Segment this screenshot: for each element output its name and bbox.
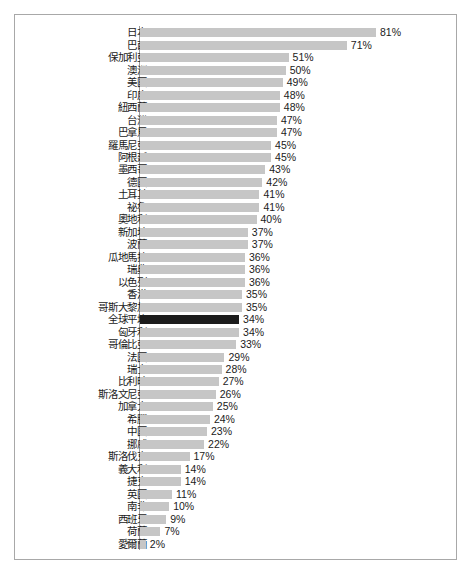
bar-category-label: 哥倫比亞 xyxy=(0,339,147,350)
bar xyxy=(140,103,280,112)
bar-value-label: 36% xyxy=(249,264,270,275)
bar-value-label: 41% xyxy=(263,189,284,200)
bar-value-label: 25% xyxy=(217,401,238,412)
bar xyxy=(140,116,277,125)
bar xyxy=(140,452,190,461)
bar-category-label: 希臘 xyxy=(0,414,147,425)
bar xyxy=(140,415,210,424)
bar-category-label: 台灣 xyxy=(0,115,147,126)
bar-value-label: 48% xyxy=(284,102,305,113)
bar-value-label: 2% xyxy=(150,539,165,550)
bar-value-label: 23% xyxy=(211,426,232,437)
bar-category-label: 紐西蘭 xyxy=(0,102,147,113)
bar xyxy=(140,365,222,374)
bar xyxy=(140,502,169,511)
bar-value-label: 40% xyxy=(261,214,282,225)
bar-category-label: 巴拿馬 xyxy=(0,127,147,138)
bar xyxy=(140,278,245,287)
bar-category-label: 羅馬尼亞 xyxy=(0,140,147,151)
bar-value-label: 42% xyxy=(266,177,287,188)
bar-category-label: 巴西 xyxy=(0,40,147,51)
bar-value-label: 36% xyxy=(249,277,270,288)
bar xyxy=(140,265,245,274)
bar xyxy=(140,440,204,449)
bar xyxy=(140,328,239,337)
bar-value-label: 33% xyxy=(240,339,261,350)
bar-category-label: 全球平均 xyxy=(0,314,147,325)
bar-category-label: 美國 xyxy=(0,77,147,88)
bar xyxy=(140,91,280,100)
bar-value-label: 43% xyxy=(269,164,290,175)
bar xyxy=(140,527,160,536)
bar xyxy=(140,28,376,37)
bar-category-label: 英國 xyxy=(0,489,147,500)
bar-category-label: 哥斯大黎加 xyxy=(0,302,147,313)
bar-value-label: 37% xyxy=(252,239,273,250)
bar-category-label: 祕魯 xyxy=(0,202,147,213)
bar xyxy=(140,427,207,436)
bar-value-label: 14% xyxy=(185,476,206,487)
bar-category-label: 阿根廷 xyxy=(0,152,147,163)
bar-value-label: 9% xyxy=(170,514,185,525)
bar xyxy=(140,540,146,549)
bar xyxy=(140,253,245,262)
bar-category-label: 西班牙 xyxy=(0,514,147,525)
bar xyxy=(140,228,248,237)
bar xyxy=(140,290,242,299)
bar-value-label: 50% xyxy=(290,65,311,76)
bar-value-label: 35% xyxy=(246,302,267,313)
bar-value-label: 45% xyxy=(275,140,296,151)
bar-category-label: 新加坡 xyxy=(0,227,147,238)
bar xyxy=(140,203,259,212)
bar-value-label: 48% xyxy=(284,90,305,101)
bar-category-label: 捷克 xyxy=(0,476,147,487)
bar xyxy=(140,465,181,474)
chart-bar-row: 愛爾蘭2% xyxy=(15,537,456,551)
bar-category-label: 義大利 xyxy=(0,464,147,475)
bar-category-label: 法國 xyxy=(0,352,147,363)
bar-category-label: 匈牙利 xyxy=(0,327,147,338)
bar xyxy=(140,515,166,524)
bar-category-label: 加拿大 xyxy=(0,401,147,412)
bar xyxy=(140,41,347,50)
bar xyxy=(140,153,271,162)
bar-chart-plot-area: 日本81%巴西71%保加利亞51%澳洲50%美國49%印度48%紐西蘭48%台灣… xyxy=(15,15,456,559)
bar-value-label: 35% xyxy=(246,289,267,300)
bar-value-label: 36% xyxy=(249,252,270,263)
bar-value-label: 28% xyxy=(226,364,247,375)
bar-category-label: 香港 xyxy=(0,289,147,300)
bar-category-label: 斯洛伐克 xyxy=(0,451,147,462)
bar-value-label: 47% xyxy=(281,127,302,138)
bar-value-label: 34% xyxy=(243,327,264,338)
chart-frame: 日本81%巴西71%保加利亞51%澳洲50%美國49%印度48%紐西蘭48%台灣… xyxy=(14,14,457,560)
bar-category-label: 中國 xyxy=(0,426,147,437)
bar xyxy=(140,390,216,399)
bar-value-label: 7% xyxy=(164,526,179,537)
bar xyxy=(140,377,219,386)
bar xyxy=(140,477,181,486)
bar xyxy=(140,240,248,249)
bar-value-label: 71% xyxy=(351,40,372,51)
bar-category-label: 印度 xyxy=(0,90,147,101)
bar-category-label: 保加利亞 xyxy=(0,52,147,63)
bar xyxy=(140,353,224,362)
bar-value-label: 29% xyxy=(228,352,249,363)
bar-value-label: 14% xyxy=(185,464,206,475)
bar-value-label: 41% xyxy=(263,202,284,213)
bar xyxy=(140,165,265,174)
bar xyxy=(140,215,257,224)
bar-and-value: 2% xyxy=(140,537,165,551)
bar-category-label: 荷蘭 xyxy=(0,526,147,537)
bar-value-label: 51% xyxy=(293,52,314,63)
bar-value-label: 24% xyxy=(214,414,235,425)
bar-category-label: 墨西哥 xyxy=(0,164,147,175)
bar xyxy=(140,53,289,62)
bar xyxy=(140,141,271,150)
bar-category-label: 比利時 xyxy=(0,376,147,387)
bar xyxy=(140,190,259,199)
bar xyxy=(140,490,172,499)
bar-category-label: 澳洲 xyxy=(0,65,147,76)
bar xyxy=(140,66,286,75)
bar xyxy=(140,178,262,187)
bar-category-label: 土耳其 xyxy=(0,189,147,200)
